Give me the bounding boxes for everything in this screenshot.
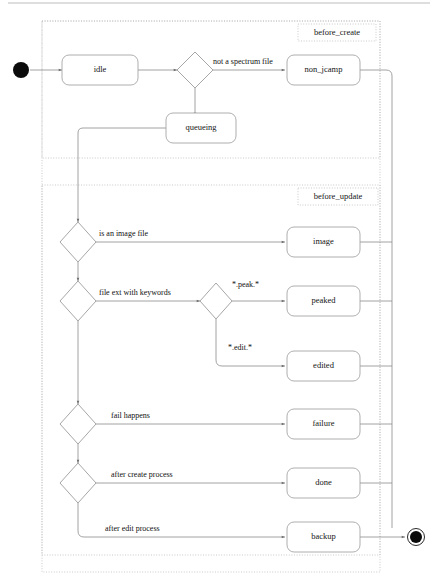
edge-non-jcamp-to-rail: [360, 70, 392, 528]
diagram-canvas: before_create before_update: [0, 0, 438, 586]
state-edited-label: edited: [313, 360, 335, 370]
edge-label-edit-glob: *.edit.*: [228, 343, 252, 352]
state-idle-label: idle: [94, 64, 107, 74]
state-node-edited[interactable]: edited: [287, 351, 360, 381]
decision-node-4[interactable]: [200, 283, 232, 319]
state-peaked-label: peaked: [311, 295, 336, 305]
edge-queueing-to-d2: [78, 128, 166, 222]
initial-node[interactable]: [13, 62, 29, 78]
state-node-failure[interactable]: failure: [287, 409, 360, 439]
edge-label-file-ext-with-keywords: file ext with keywords: [99, 288, 171, 297]
state-node-queueing[interactable]: queueing: [166, 113, 236, 143]
decision-node-2[interactable]: [60, 222, 96, 262]
edge-label-peak-glob: *.peak.*: [232, 280, 259, 289]
region-before-update-label: before_update: [314, 191, 363, 201]
state-non-jcamp-label: non_jcamp: [305, 64, 343, 74]
edge-label-after-create-process: after create process: [111, 470, 173, 479]
state-node-backup[interactable]: backup: [287, 522, 360, 552]
decision-node-3[interactable]: [60, 281, 96, 321]
decision-node-6[interactable]: [60, 463, 96, 503]
region-before-create-label: before_create: [314, 27, 360, 37]
state-image-label: image: [313, 236, 334, 246]
state-node-idle[interactable]: idle: [62, 55, 138, 85]
final-node[interactable]: [410, 531, 422, 543]
decision-node-5[interactable]: [60, 404, 96, 444]
state-diagram: before_create before_update: [0, 0, 438, 586]
state-queueing-label: queueing: [185, 122, 217, 132]
state-done-label: done: [315, 477, 332, 487]
edge-label-not-a-spectrum-file: not a spectrum file: [213, 57, 273, 66]
state-node-non-jcamp[interactable]: non_jcamp: [287, 55, 360, 85]
state-backup-label: backup: [311, 531, 336, 541]
edge-label-is-an-image-file: is an image file: [99, 229, 149, 238]
state-node-peaked[interactable]: peaked: [287, 286, 360, 316]
edge-label-fail-happens: fail happens: [111, 411, 150, 420]
decision-node-1[interactable]: [177, 52, 213, 88]
edge-label-after-edit-process: after edit process: [105, 524, 160, 533]
state-node-done[interactable]: done: [287, 468, 360, 498]
state-node-image[interactable]: image: [287, 227, 360, 257]
state-failure-label: failure: [312, 418, 334, 428]
